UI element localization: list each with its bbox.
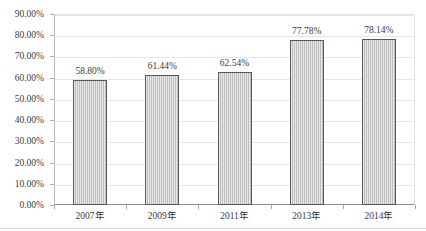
gridline: [55, 15, 414, 16]
x-axis-tick-label: 2007年: [50, 210, 130, 222]
x-axis-tick-mark: [54, 205, 55, 209]
y-axis-tick-mark: [50, 163, 54, 164]
y-axis-tick-mark: [50, 35, 54, 36]
y-axis-tick-label: 60.00%: [15, 73, 44, 83]
y-axis-tick-mark: [50, 184, 54, 185]
y-axis-tick-mark: [50, 120, 54, 121]
bar: [145, 75, 179, 205]
y-axis-tick-mark: [50, 14, 54, 15]
x-axis-tick-label: 2009年: [122, 210, 202, 222]
y-axis-tick-label: 80.00%: [15, 30, 44, 40]
bar: [218, 72, 252, 205]
y-axis-tick-mark: [50, 141, 54, 142]
bar-value-label: 78.14%: [364, 25, 393, 36]
bar-value-label: 77.78%: [292, 26, 321, 37]
x-axis-tick-mark: [271, 205, 272, 209]
y-axis-tick-mark: [50, 78, 54, 79]
y-axis-tick-label: 40.00%: [15, 115, 44, 125]
y-axis-tick-label: 10.00%: [15, 179, 44, 189]
bottom-rule: [0, 228, 426, 229]
y-axis-tick-label: 70.00%: [15, 51, 44, 61]
y-axis-tick-mark: [50, 99, 54, 100]
x-axis-tick-label: 2013年: [267, 210, 347, 222]
bar-value-label: 62.54%: [220, 58, 249, 69]
x-axis-tick-label: 2011年: [195, 210, 275, 222]
bar-value-label: 58.80%: [75, 66, 104, 77]
bar: [290, 40, 324, 205]
y-axis: 90.00%80.00%70.00%60.00%50.00%40.00%30.0…: [0, 0, 50, 231]
y-axis-tick-label: 50.00%: [15, 94, 44, 104]
gridline: [55, 36, 414, 37]
x-axis-tick-mark: [126, 205, 127, 209]
bar: [73, 80, 107, 205]
x-axis-tick-label: 2014年: [339, 210, 419, 222]
bar-value-label: 61.44%: [148, 61, 177, 72]
y-axis-tick-mark: [50, 56, 54, 57]
y-axis-tick-label: 30.00%: [15, 136, 44, 146]
y-axis-tick-label: 20.00%: [15, 158, 44, 168]
x-axis-tick-mark: [415, 205, 416, 209]
x-axis-tick-mark: [343, 205, 344, 209]
bar-chart: 90.00%80.00%70.00%60.00%50.00%40.00%30.0…: [0, 0, 426, 231]
y-axis-tick-label: 90.00%: [15, 9, 44, 19]
bar: [362, 39, 396, 205]
y-axis-tick-label: 0.00%: [19, 200, 44, 210]
x-axis-tick-mark: [198, 205, 199, 209]
